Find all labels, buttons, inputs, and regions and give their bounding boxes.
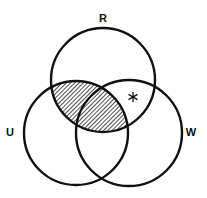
asterisk-marker-icon	[129, 92, 138, 102]
label-u: U	[6, 126, 14, 138]
venn-diagram: R U W	[0, 0, 207, 198]
label-r: R	[99, 12, 107, 24]
label-w: W	[186, 126, 197, 138]
